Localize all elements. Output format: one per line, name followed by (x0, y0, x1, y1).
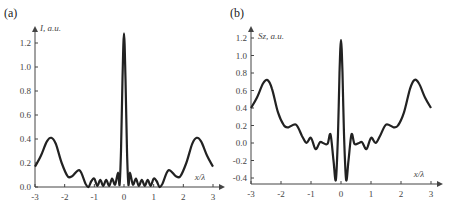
y-tick-label: 0.0 (20, 182, 32, 192)
chart-panel-a: (a)0.00.20.40.60.81.01.2-3-2-10123I, a.u… (4, 6, 225, 202)
y-tick-label: 1.2 (236, 33, 247, 43)
x-tick-label: 2 (399, 189, 404, 199)
x-tick-label: 3 (211, 192, 216, 202)
data-curve (35, 33, 213, 187)
y-tick-label: 0.0 (236, 138, 248, 148)
x-tick-label: -1 (307, 189, 315, 199)
y-tick-label: 0.6 (20, 110, 32, 120)
x-tick-label: -2 (61, 192, 69, 202)
y-tick-label: -0.2 (233, 156, 247, 166)
x-axis-label: x/λ (194, 172, 205, 182)
panel-label: (a) (4, 6, 17, 20)
y-tick-label: -0.4 (233, 173, 248, 183)
y-axis-label: I, a.u. (39, 23, 61, 33)
x-tick-label: 1 (369, 189, 374, 199)
x-axis-label: x/λ (413, 169, 424, 179)
x-tick-label: -3 (31, 192, 39, 202)
x-axis-arrow-icon (437, 181, 443, 187)
x-tick-label: -3 (247, 189, 255, 199)
x-tick-label: 1 (151, 192, 156, 202)
x-tick-label: 0 (339, 189, 344, 199)
y-tick-label: 1.2 (20, 38, 31, 48)
x-tick-label: 0 (122, 192, 127, 202)
x-tick-label: -1 (91, 192, 99, 202)
panel-label: (b) (230, 6, 244, 20)
x-tick-label: 2 (181, 192, 186, 202)
y-tick-label: 0.8 (20, 86, 32, 96)
x-tick-label: 3 (429, 189, 434, 199)
y-axis-arrow-icon (248, 26, 254, 32)
chart-panel-b: (b)-0.4-0.20.00.20.40.60.81.01.2-3-2-101… (230, 6, 443, 199)
data-curve (251, 40, 431, 181)
y-axis-arrow-icon (32, 26, 38, 32)
x-axis-arrow-icon (219, 184, 225, 190)
y-tick-label: 0.6 (236, 86, 248, 96)
y-tick-label: 0.4 (20, 134, 32, 144)
x-tick-label: -2 (277, 189, 285, 199)
y-tick-label: 0.2 (20, 158, 31, 168)
y-tick-label: 0.4 (236, 103, 248, 113)
y-tick-label: 0.2 (236, 121, 247, 131)
figure: (a)0.00.20.40.60.81.01.2-3-2-10123I, a.u… (0, 0, 452, 213)
y-tick-label: 1.0 (20, 62, 32, 72)
y-axis-label: Sz, a.u. (258, 31, 284, 41)
y-tick-label: 0.8 (236, 68, 248, 78)
y-tick-label: 1.0 (236, 51, 248, 61)
